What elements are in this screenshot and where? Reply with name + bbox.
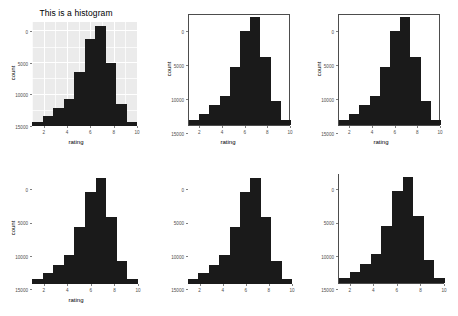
histogram-bar — [106, 217, 117, 284]
histogram-bar — [339, 120, 349, 125]
x-axis-tick-label: 2 — [198, 288, 201, 293]
x-axis-tick-label: 8 — [266, 130, 269, 135]
histogram-bar — [32, 279, 43, 284]
histogram-bar — [43, 116, 54, 126]
x-axis-tick-mark — [372, 126, 373, 128]
x-axis-tick-label: 2 — [42, 288, 45, 293]
y-axis-tick-label: 5000 — [174, 63, 184, 68]
x-axis-tick-label: 10 — [437, 130, 442, 135]
histogram-bars — [189, 15, 289, 125]
y-axis-tick-label: 15000 — [321, 131, 334, 136]
x-axis-tick-label: 6 — [396, 288, 399, 293]
histogram-panel-6: 050001000015000246810 — [304, 158, 458, 316]
x-axis-tick-label: 4 — [221, 288, 224, 293]
y-axis-tick-label: 10000 — [171, 97, 184, 102]
y-axis-tick-mark — [30, 31, 32, 32]
histogram-bar — [219, 255, 229, 284]
y-axis-tick-label: 15000 — [321, 288, 334, 293]
histogram-bar — [261, 217, 271, 284]
histogram-panel-2: 050001000015000246810ratingcount — [152, 0, 304, 158]
histogram-bar — [74, 227, 85, 284]
x-axis-tick-mark — [420, 284, 421, 286]
histogram-bar — [53, 265, 64, 284]
histogram-bar — [413, 216, 424, 283]
histogram-bar — [209, 265, 219, 284]
y-axis-tick-mark — [336, 256, 338, 257]
x-axis-tick-mark — [373, 284, 374, 286]
y-axis-tick-label: 15000 — [171, 288, 184, 293]
plot-area — [338, 174, 444, 284]
histogram-bars — [339, 15, 439, 125]
y-axis-tick-mark — [336, 189, 338, 190]
histogram-panel-5: 050001000015000246810 — [152, 158, 304, 316]
y-axis-tick-label: 0 — [331, 30, 334, 35]
histogram-bar — [359, 105, 369, 125]
y-axis-tick-label: 0 — [331, 188, 334, 193]
histogram-bar — [380, 67, 390, 125]
x-axis-tick-mark — [292, 284, 293, 286]
histogram-bar — [370, 96, 380, 125]
y-axis-tick-mark — [30, 126, 32, 127]
x-axis-tick-mark — [350, 284, 351, 286]
y-axis-tick-mark — [336, 223, 338, 224]
x-axis-tick-mark — [200, 284, 201, 286]
y-axis-tick-mark — [186, 65, 188, 66]
y-axis-tick-label: 5000 — [324, 221, 334, 226]
histogram-bar — [281, 120, 291, 125]
x-axis-tick-label: 4 — [66, 288, 69, 293]
histogram-bar — [95, 26, 106, 126]
histogram-bars — [339, 174, 444, 283]
histogram-bar — [282, 279, 292, 284]
x-axis-tick-label: 8 — [112, 130, 115, 135]
histogram-panel-3: 050001000015000246810ratingcount — [304, 0, 458, 158]
y-axis-tick-label: 5000 — [18, 221, 28, 226]
y-axis-tick-label: 0 — [25, 188, 28, 193]
histogram-bar — [350, 272, 361, 283]
y-axis-tick-mark — [336, 31, 338, 32]
x-axis-tick-mark — [349, 126, 350, 128]
histogram-bar — [189, 120, 199, 125]
x-axis-tick-mark — [223, 284, 224, 286]
y-axis-tick-mark — [336, 289, 338, 290]
histogram-bar — [85, 39, 96, 126]
histogram-bar — [106, 63, 117, 126]
y-axis-tick-label: 10000 — [321, 97, 334, 102]
x-axis-tick-mark — [267, 126, 268, 128]
histogram-bar — [116, 104, 127, 126]
x-axis-title: rating — [304, 139, 458, 145]
histogram-bar — [349, 114, 359, 125]
y-axis-tick-mark — [336, 65, 338, 66]
x-axis-tick-mark — [67, 126, 68, 128]
histogram-bar — [431, 120, 441, 125]
y-axis-tick-mark — [186, 189, 188, 190]
histogram-bar — [198, 273, 208, 284]
x-axis-tick-mark — [114, 284, 115, 286]
x-axis-tick-mark — [137, 126, 138, 128]
plot-area — [338, 14, 440, 126]
x-axis-title: rating — [0, 297, 152, 303]
histogram-bar — [381, 226, 392, 283]
x-axis-tick-label: 4 — [371, 130, 374, 135]
y-axis-tick-mark — [336, 99, 338, 100]
y-axis-tick-label: 5000 — [174, 221, 184, 226]
histogram-bar — [230, 227, 240, 284]
x-axis-tick-label: 2 — [348, 130, 351, 135]
x-axis-tick-label: 10 — [135, 288, 140, 293]
x-axis-tick-mark — [444, 284, 445, 286]
histogram-bar — [96, 178, 107, 284]
histogram-panel-4: 050001000015000246810ratingcount — [0, 158, 152, 316]
histogram-bars — [32, 174, 138, 284]
x-axis-tick-mark — [199, 126, 200, 128]
plot-area — [32, 174, 138, 284]
histogram-bar — [220, 96, 230, 125]
plot-area — [188, 174, 292, 284]
histogram-bar — [403, 177, 414, 283]
y-axis-tick-label: 10000 — [171, 254, 184, 259]
histogram-bar — [271, 261, 281, 284]
y-axis-tick-mark — [186, 289, 188, 290]
histogram-bar — [230, 67, 240, 125]
x-axis-tick-label: 2 — [348, 288, 351, 293]
y-axis-title: count — [316, 54, 322, 84]
x-axis-tick-mark — [290, 126, 291, 128]
histogram-bar — [434, 278, 445, 283]
